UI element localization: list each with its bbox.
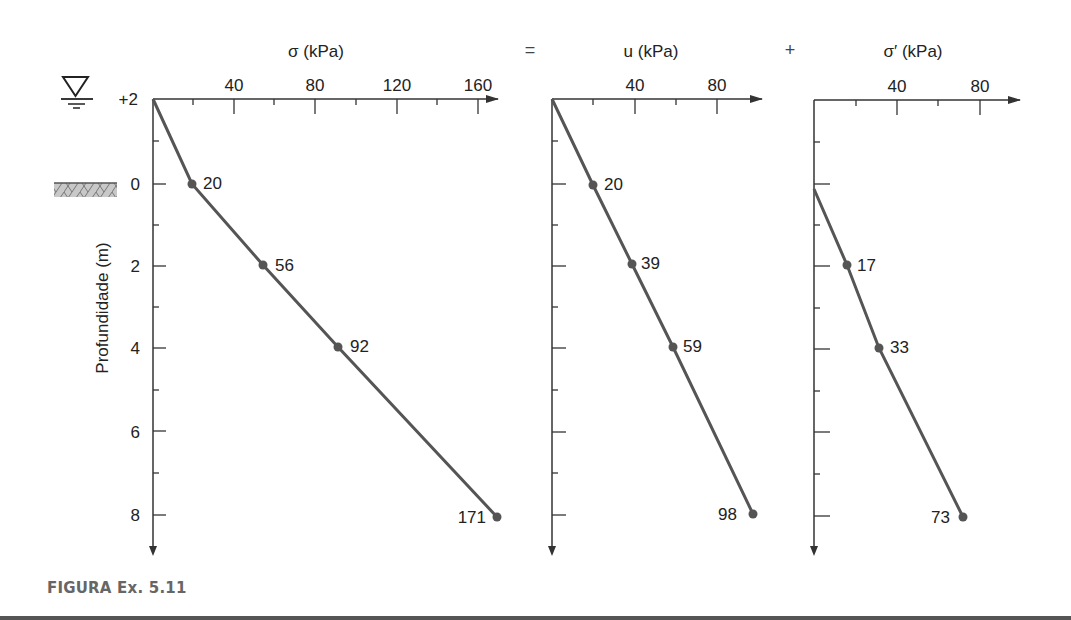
equals-operator: = [525,40,536,60]
svg-text:98: 98 [718,505,737,524]
svg-text:171: 171 [458,508,486,527]
svg-text:59: 59 [683,337,702,356]
svg-text:17: 17 [857,256,876,275]
chart-effective-stress: σ′ (kPa) 40 80 17 [810,42,1020,556]
figure-canvas: Profundidade (m) +2 0 2 4 6 8 σ (kPa) 40… [0,0,1071,620]
svg-text:20: 20 [203,174,222,193]
svg-text:120: 120 [383,76,411,95]
svg-text:33: 33 [890,338,909,357]
svg-text:80: 80 [708,76,727,95]
svg-text:2: 2 [131,257,140,276]
soil-hatch-icon [54,183,117,197]
svg-text:20: 20 [604,175,623,194]
svg-text:160: 160 [464,76,492,95]
svg-text:40: 40 [626,76,645,95]
svg-text:+2: +2 [119,90,138,109]
svg-text:80: 80 [971,77,990,96]
chart-pore-pressure: u (kPa) 40 80 [548,42,762,556]
svg-text:40: 40 [225,76,244,95]
y-axis-label: Profundidade (m) [93,242,112,373]
chart-title: σ (kPa) [288,42,344,61]
svg-text:4: 4 [131,339,140,358]
depth-tick-labels: +2 0 2 4 6 8 [119,90,140,525]
figure-caption: FIGURA Ex. 5.11 [47,579,187,597]
bottom-rule [0,616,1071,620]
svg-text:8: 8 [131,506,140,525]
svg-text:40: 40 [888,77,907,96]
chart-total-stress: σ (kPa) 40 80 120 160 [149,42,502,556]
svg-text:6: 6 [131,423,140,442]
water-table-icon [61,77,93,108]
svg-text:92: 92 [350,337,369,356]
plus-operator: + [785,40,796,60]
chart-title: u (kPa) [624,42,679,61]
svg-text:73: 73 [931,508,950,527]
chart-title: σ′ (kPa) [883,42,942,61]
svg-text:80: 80 [306,76,325,95]
svg-text:56: 56 [275,256,294,275]
svg-text:0: 0 [131,175,140,194]
svg-text:39: 39 [641,254,660,273]
